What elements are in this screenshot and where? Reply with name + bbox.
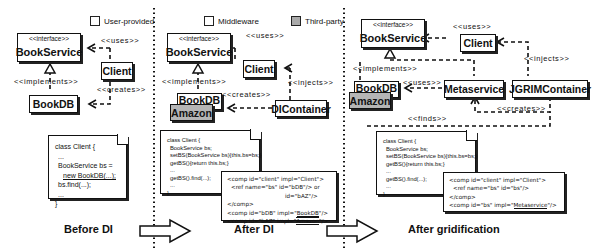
client-box: Client: [243, 60, 275, 78]
metaservice-box: Metaservice: [444, 80, 504, 98]
implements-label: <<implements>>: [14, 77, 78, 86]
box-name: BookService: [360, 32, 427, 44]
creates-label: <<creates>>: [497, 104, 546, 113]
impl-highlight: BookDB: [297, 210, 319, 217]
client-box: Client: [101, 62, 133, 80]
xml-line: </comp>: [227, 200, 331, 208]
creates-label: <<creates>>: [97, 85, 146, 94]
box-name: BookService: [166, 46, 233, 58]
note-fold-icon: [117, 134, 128, 145]
stereotype-label: <<interface>>: [168, 35, 230, 42]
code-line: class Client {: [55, 142, 120, 152]
box-name: Metaservice: [444, 83, 504, 95]
injects-label: <<injects>>: [288, 78, 333, 87]
uses-label: <<uses>>: [453, 22, 491, 31]
box-name: Client: [463, 37, 492, 49]
code-line: class Client {: [383, 138, 469, 146]
bookservice-interface-box: <<interface>> BookService: [167, 33, 231, 62]
code-line: ...: [55, 152, 120, 162]
code-line: BookService bs =: [55, 161, 120, 171]
xml-line: <ref name="bs" id="bDB"/> or: [227, 183, 331, 191]
xml-line: <ref name="bs" id="bs"/>: [449, 184, 559, 192]
client-box: Client: [460, 34, 496, 52]
bookservice-interface-box: <<interface>> BookService: [17, 33, 81, 62]
code-line: bs.find(...);: [55, 180, 120, 190]
xml-line: <comp id="client" impl="Client">: [227, 175, 331, 183]
jgrimcontainer-box: JGRIMContainer: [512, 80, 588, 98]
box-name: DIContainer: [271, 103, 331, 115]
caption-after-gridification: After gridification: [408, 223, 500, 235]
code-line: }: [55, 199, 120, 209]
bookdb-box: BookDB: [29, 95, 78, 113]
note-fold-icon: [466, 130, 477, 141]
impl-highlight: Metaservice: [514, 202, 548, 209]
code-line: BookService bs;: [167, 145, 253, 153]
xml-config-after-di: <comp id="client" impl="Client"> <ref na…: [221, 171, 337, 221]
note-fold-icon: [250, 129, 261, 140]
code-line: BookService bs;: [383, 146, 469, 154]
impl-highlight: Amazon: [296, 217, 319, 225]
box-name: Amazon: [350, 95, 391, 107]
amazon-box: Amazon: [170, 104, 213, 121]
code-highlight: new BookDB(...);: [63, 172, 116, 180]
code-line: setBS(BookService bs){this.bs=bs;}: [383, 153, 469, 161]
stereotype-label: <<interface>>: [362, 21, 424, 28]
xml-line: <comp id="bDB" impl="BookDB"/>: [227, 209, 331, 217]
creates-label: <<creates>>: [222, 90, 271, 99]
xml-line: </comp>: [449, 193, 559, 201]
code-note-before-di: class Client { ... BookService bs = new …: [48, 135, 127, 199]
implements-label: <<implements>>: [353, 64, 417, 73]
implements-label: <<implements>>: [162, 77, 226, 86]
code-line: class Client {: [167, 137, 253, 145]
xml-config-after-gridification: <comp id="client" impl="Client"> <ref na…: [443, 172, 565, 212]
box-name: Amazon: [171, 107, 212, 119]
uses-label-2: <<uses>>: [403, 78, 441, 87]
xml-line: id="bAZ"/>: [227, 192, 331, 200]
caption-before-di: Before DI: [64, 223, 113, 235]
stereotype-label: <<interface>>: [18, 35, 80, 42]
bookservice-interface-box: <<interface>> BookService: [361, 19, 425, 48]
code-line: new BookDB(...);: [55, 171, 120, 181]
code-line: getBS(){return this.bs;}: [167, 160, 253, 168]
uses-label: <<uses>>: [101, 36, 139, 45]
code-line: ...: [55, 190, 120, 200]
code-line: getBS(){return this.bs;}: [383, 161, 469, 169]
amazon-box: Amazon: [349, 92, 391, 109]
injects-label: <<injects>>: [524, 54, 569, 63]
dicontainer-box: DIContainer: [275, 100, 327, 117]
box-name: Client: [102, 65, 131, 77]
xml-line: <comp id="bs" impl="Metaservice"/>: [449, 201, 559, 209]
caption-after-di: After DI: [234, 223, 274, 235]
box-name: JGRIMContainer: [509, 83, 591, 95]
box-name: Client: [244, 63, 273, 75]
code-line: setBS(BookService bs){this.bs=bs;}: [167, 152, 253, 160]
finds-label: <<finds>>: [408, 114, 447, 123]
uses-label: <<uses>>: [246, 31, 284, 40]
box-name: BookDB: [33, 98, 74, 110]
box-name: BookService: [16, 46, 83, 58]
xml-line: <comp id="client" impl="Client">: [449, 176, 559, 184]
